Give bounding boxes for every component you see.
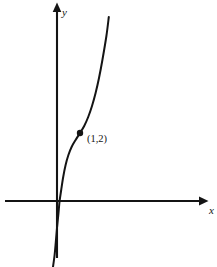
point-marker-dot [77,130,83,136]
y-axis-label: y [61,6,67,18]
graph-plot: y x (1,2) [0,0,217,267]
point-coordinate-label: (1,2) [87,133,108,145]
x-axis-label: x [208,204,214,216]
figure-canvas: y x (1,2) [0,0,217,267]
plot-background [0,0,217,267]
